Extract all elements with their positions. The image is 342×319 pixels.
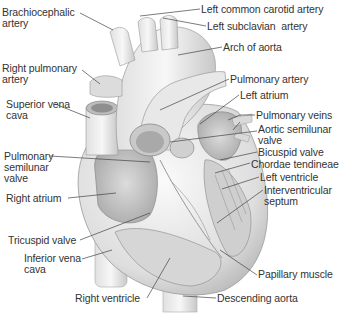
label-superior-vena-cava: Superior vena cava [6, 99, 70, 121]
label-bicuspid-valve: Bicuspid valve [258, 147, 324, 158]
label-tricuspid-valve: Tricuspid valve [8, 235, 76, 246]
label-right-atrium: Right atrium [6, 193, 61, 204]
label-inferior-vena-cava: Inferior vena cava [24, 253, 81, 275]
label-pulmonary-semilunar-valve: Pulmonary semilunar valve [4, 151, 53, 184]
label-arch-of-aorta: Arch of aorta [223, 42, 282, 53]
label-interventricular-septum: Interventricular septum [264, 185, 332, 207]
label-aortic-semilunar-valve: Aortic semilunar valve [258, 124, 332, 146]
label-chordae-tendineae: Chordae tendineae [251, 159, 339, 170]
heart-diagram: Brachiocephalic artery Left common carot… [0, 0, 342, 319]
label-papillary-muscle: Papillary muscle [258, 269, 333, 280]
label-right-ventricle: Right ventricle [75, 293, 140, 304]
label-brachiocephalic-artery: Brachiocephalic artery [2, 7, 75, 29]
label-left-atrium: Left atrium [240, 90, 289, 101]
label-pulmonary-artery: Pulmonary artery [230, 74, 308, 85]
label-right-pulmonary-artery: Right pulmonary artery [2, 63, 77, 85]
label-left-subclavian-artery: Left subclavian artery [207, 21, 307, 32]
label-descending-aorta: Descending aorta [217, 293, 298, 304]
label-pulmonary-veins: Pulmonary veins [256, 110, 332, 121]
label-left-ventricle: Left ventricle [260, 172, 318, 183]
label-left-common-carotid-artery: Left common carotid artery [201, 4, 323, 15]
